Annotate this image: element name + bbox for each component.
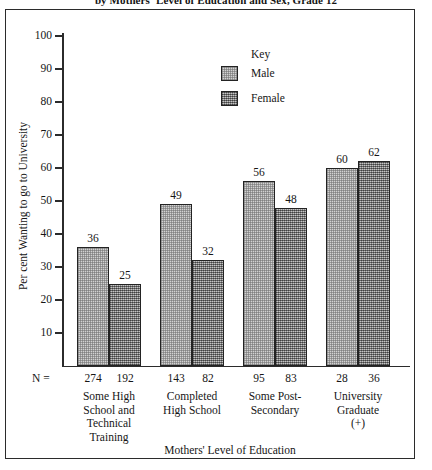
bar-value-label: 56 (239, 166, 279, 178)
n-value: 36 (354, 372, 394, 384)
n-row-prefix: N = (32, 372, 50, 384)
x-axis-category-line: Training (59, 431, 159, 445)
y-axis-tick (55, 68, 63, 69)
y-axis-tick (55, 101, 63, 102)
bar-male-4[interactable] (326, 168, 358, 366)
y-axis-tick (55, 167, 63, 168)
plot-area: 102030405060708090100 Per cent Wanting t… (0, 0, 432, 470)
x-axis-category-line: Technical (59, 417, 159, 431)
y-axis-tick (55, 266, 63, 267)
y-axis-tick-label: 100 (20, 30, 52, 42)
n-value: 82 (188, 372, 228, 384)
bar-male-1[interactable] (77, 247, 109, 366)
y-axis-tick (55, 35, 63, 36)
x-axis-title: Mothers' Level of Education (110, 444, 350, 456)
x-axis-category-line: (+) (308, 417, 408, 431)
bar-male-3[interactable] (243, 181, 275, 366)
y-axis-title: Per cent Wanting to go to University (17, 91, 29, 321)
legend-label-female: Female (251, 92, 285, 104)
bar-female-1[interactable] (109, 284, 141, 367)
legend-swatch-male-icon (221, 66, 238, 81)
x-axis-category-label: UniversityGraduate(+) (308, 390, 408, 431)
y-axis-tick-label: 10 (20, 327, 52, 339)
bar-value-label: 49 (156, 189, 196, 201)
n-value: 192 (105, 372, 145, 384)
y-axis-tick-label: 90 (20, 63, 52, 75)
bar-value-label: 36 (73, 232, 113, 244)
bar-female-4[interactable] (358, 161, 390, 366)
bar-male-2[interactable] (160, 204, 192, 366)
y-axis-tick (55, 200, 63, 201)
bar-value-label: 32 (188, 245, 228, 257)
bar-value-label: 25 (105, 269, 145, 281)
x-axis-category-line: Graduate (308, 404, 408, 418)
bar-female-3[interactable] (275, 208, 307, 366)
n-value: 83 (271, 372, 311, 384)
y-axis-tick (55, 299, 63, 300)
bar-value-label: 48 (271, 193, 311, 205)
bar-value-label: 62 (354, 146, 394, 158)
bar-female-2[interactable] (192, 260, 224, 366)
y-axis-tick (55, 332, 63, 333)
legend-label-male: Male (251, 67, 275, 79)
y-axis-tick (55, 233, 63, 234)
legend-swatch-female-icon (221, 91, 238, 106)
legend-title: Key (251, 48, 270, 60)
x-axis-category-line: University (308, 390, 408, 404)
y-axis-tick (55, 134, 63, 135)
